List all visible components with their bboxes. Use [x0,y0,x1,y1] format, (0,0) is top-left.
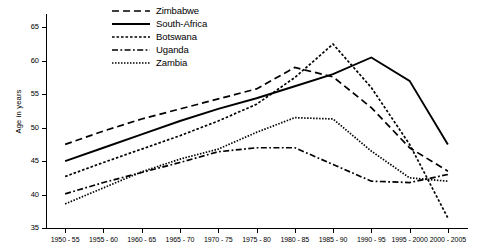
x-tick-label: 1975 - 80 [242,236,271,243]
legend-line-swatch-icon [112,32,150,42]
x-tick-mark [218,228,219,233]
legend-line-swatch-icon [112,58,150,68]
x-tick-label: 1965 - 70 [166,236,195,243]
y-tick-label-wrap: 45 [0,157,47,165]
x-tick-mark [103,228,104,233]
x-tick-mark [180,228,181,233]
y-tick-label: 60 [19,57,39,65]
x-tick-label: 1985 - 90 [319,236,348,243]
series-line-zambia [65,118,448,204]
x-tick-mark [333,228,334,233]
x-tick-mark [448,228,449,233]
x-tick-mark [65,228,66,233]
x-tick-mark [410,228,411,233]
y-tick-label: 50 [19,124,39,132]
legend-item-label: Zimbabwe [156,6,199,16]
legend-line-swatch-icon [112,19,150,29]
x-tick-mark [295,228,296,233]
x-tick-label: 1950 - 55 [51,236,80,243]
x-tick-label: 1960 - 65 [127,236,156,243]
y-tick-label: 55 [19,90,39,98]
line-chart: Age in years 35404550556065 1950 - 55195… [0,0,485,251]
y-tick-label-wrap: 60 [0,57,47,65]
x-tick-label: 1955 - 60 [89,236,118,243]
y-tick-label-wrap: 35 [0,224,47,232]
legend-item-label: Botswana [156,32,197,42]
x-tick-mark [142,228,143,233]
legend-line-swatch-icon [112,6,150,16]
series-line-south-africa [65,57,448,161]
legend-item-uganda[interactable]: Uganda [112,43,207,56]
x-tick-mark [371,228,372,233]
y-tick-label-wrap: 55 [0,90,47,98]
legend-item-zambia[interactable]: Zambia [112,56,207,69]
x-tick-label: 1990 - 95 [357,236,386,243]
legend-item-label: Zambia [156,58,187,68]
plot-area [46,14,467,228]
legend-item-botswana[interactable]: Botswana [112,30,207,43]
legend-item-label: South-Africa [156,19,207,29]
y-tick-label-wrap: 50 [0,124,47,132]
chart-legend: ZimbabweSouth-AfricaBotswanaUgandaZambia [112,4,207,69]
y-tick-label-wrap: 65 [0,23,47,31]
legend-item-zimbabwe[interactable]: Zimbabwe [112,4,207,17]
legend-line-swatch-icon [112,45,150,55]
y-tick-label: 40 [19,191,39,199]
x-tick-label: 1995 - 2000 [391,236,427,243]
series-line-uganda [65,148,448,194]
legend-item-label: Uganda [156,45,189,55]
y-tick-label: 35 [19,224,39,232]
x-tick-label: 1970 - 75 [204,236,233,243]
x-tick-label: 1980 - 85 [280,236,309,243]
series-lines [46,14,467,228]
legend-item-south-africa[interactable]: South-Africa [112,17,207,30]
y-tick-label: 45 [19,157,39,165]
y-tick-label-wrap: 40 [0,191,47,199]
x-tick-label: 2000 - 2005 [430,236,466,243]
x-tick-mark [257,228,258,233]
y-tick-label: 65 [19,23,39,31]
y-axis-title: Age in years [14,72,23,152]
